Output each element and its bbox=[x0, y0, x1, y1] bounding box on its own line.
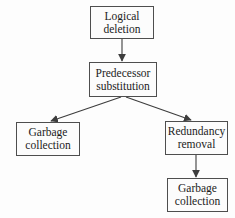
node-garbage-collection-right: Garbage collection bbox=[167, 178, 228, 212]
node-predecessor-substitution: Predecessor substitution bbox=[89, 62, 157, 97]
node-garbage-collection-left: Garbage collection bbox=[16, 122, 80, 156]
edge-predecessor-substitution-to-redundancy-removal bbox=[126, 97, 191, 120]
node-redundancy-removal: Redundancy removal bbox=[165, 121, 228, 155]
flowchart-canvas: Logical deletion Predecessor substitutio… bbox=[0, 0, 235, 218]
node-logical-deletion: Logical deletion bbox=[90, 6, 154, 39]
edge-predecessor-substitution-to-garbage-collection-left bbox=[51, 97, 121, 121]
